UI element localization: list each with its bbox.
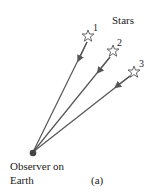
observer-label-line1: Observer on xyxy=(10,161,64,172)
light-ray-1 xyxy=(33,42,87,152)
light-ray-2 xyxy=(33,57,110,152)
star-label-3: 3 xyxy=(139,59,144,69)
star-label-2: 2 xyxy=(117,38,122,48)
panel-label: (a) xyxy=(91,175,103,186)
stars-heading: Stars xyxy=(112,15,134,26)
star-label-1: 1 xyxy=(93,23,98,33)
diagram-canvas: Stars 1 2 3 Observer on Earth (a) xyxy=(0,0,154,192)
light-ray-3 xyxy=(33,76,130,152)
observer-dot-icon xyxy=(30,150,37,157)
observer-label-line2: Earth xyxy=(10,175,34,186)
